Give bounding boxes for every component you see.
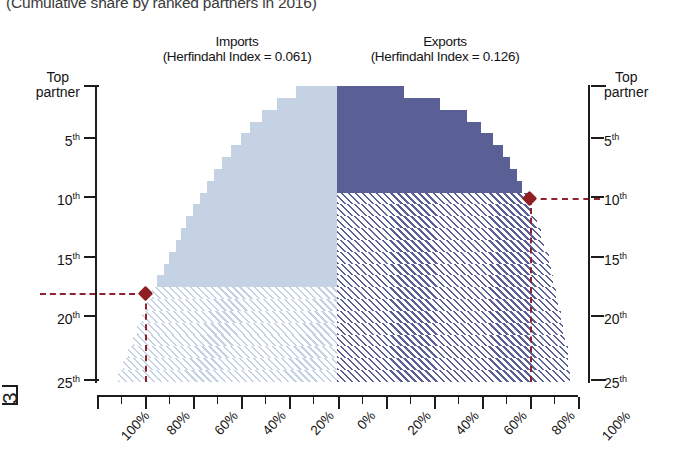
- x-axis-tick: [434, 397, 436, 409]
- imports-panel-title: Imports (Herfindahl Index = 0.061): [127, 34, 347, 64]
- bar-row: [337, 181, 522, 193]
- bar-row: [337, 216, 537, 228]
- bar-row: [337, 145, 503, 157]
- x-axis-label: 0%: [354, 408, 378, 433]
- bar-row: [157, 275, 337, 287]
- x-axis-label: 40%: [260, 408, 289, 438]
- bar-row: [337, 287, 556, 299]
- x-axis-minor-tick: [313, 397, 314, 404]
- bar-row: [169, 252, 337, 264]
- bar-row: [296, 86, 337, 98]
- page-number: 3: [0, 392, 22, 404]
- y-axis-label: 5th: [65, 130, 80, 149]
- x-axis-minor-tick: [362, 397, 363, 404]
- bar-row: [337, 86, 404, 98]
- x-axis-minor-tick: [554, 397, 555, 404]
- chart-page: (Cumulative share by ranked partners in …: [0, 0, 686, 454]
- exports-bars: [337, 86, 578, 382]
- bar-row: [337, 346, 568, 358]
- x-axis-tick: [193, 397, 195, 409]
- bar-row: [337, 122, 481, 134]
- bar-row: [123, 358, 337, 370]
- bar-row: [231, 145, 337, 157]
- exports-title-label: Exports: [330, 34, 560, 49]
- bar-row: [207, 181, 337, 193]
- x-axis-label: 60%: [212, 408, 241, 438]
- y-axis-tick: [591, 256, 604, 258]
- y-axis-tick: [591, 315, 604, 317]
- y-axis-label: 5th: [604, 130, 619, 149]
- x-axis: [97, 395, 578, 397]
- bar-row: [337, 169, 517, 181]
- bar-row: [147, 299, 337, 311]
- x-axis-tick: [145, 397, 147, 409]
- y-axis-label: 10th: [57, 189, 80, 208]
- bar-row: [214, 169, 337, 181]
- bar-row: [337, 299, 558, 311]
- bar-row: [337, 275, 553, 287]
- imports-guide-line-vertical: [145, 293, 147, 382]
- exports-panel-title: Exports (Herfindahl Index = 0.126): [330, 34, 560, 64]
- imports-herfindahl-label: (Herfindahl Index = 0.061): [127, 49, 347, 64]
- bar-row: [337, 204, 532, 216]
- imports-title-label: Imports: [127, 34, 347, 49]
- y-axis-label: 15th: [604, 249, 627, 268]
- bar-row: [164, 264, 337, 276]
- x-axis-tick: [482, 397, 484, 409]
- bar-row: [118, 370, 337, 382]
- x-axis-tick: [289, 397, 291, 409]
- y-axis-label: 25th: [57, 372, 80, 391]
- y-axis-tick: [591, 196, 604, 198]
- x-axis-minor-tick: [217, 397, 218, 404]
- x-axis-minor-tick: [506, 397, 507, 404]
- bar-row: [277, 98, 337, 110]
- bar-row: [250, 122, 337, 134]
- x-axis-tick: [338, 397, 340, 409]
- bar-row: [181, 228, 337, 240]
- x-axis-tick: [578, 397, 580, 409]
- x-axis-minor-tick: [458, 397, 459, 404]
- x-axis-label: 80%: [548, 408, 577, 438]
- x-axis-label: 100%: [118, 408, 153, 443]
- x-axis-tick: [530, 397, 532, 409]
- bar-row: [142, 311, 337, 323]
- exports-guide-line-vertical: [530, 198, 532, 382]
- y-axis-label: 20th: [604, 308, 627, 327]
- y-axis-tick: [591, 137, 604, 139]
- bar-row: [337, 228, 541, 240]
- x-axis-minor-tick: [169, 397, 170, 404]
- y-axis-label: 15th: [57, 249, 80, 268]
- bar-row: [337, 110, 467, 122]
- bar-row: [137, 323, 337, 335]
- plot-area: [97, 86, 578, 382]
- bar-row: [152, 287, 337, 299]
- y-axis-label: Toppartner: [36, 70, 80, 100]
- y-axis-label: 20th: [57, 308, 80, 327]
- x-axis-minor-tick: [410, 397, 411, 404]
- bar-row: [337, 240, 544, 252]
- y-axis-label: 25th: [604, 372, 627, 391]
- x-axis-label: 80%: [164, 408, 193, 438]
- bar-row: [337, 193, 527, 205]
- bar-row: [337, 311, 561, 323]
- bar-row: [337, 133, 493, 145]
- y-axis-label: Toppartner: [604, 70, 648, 100]
- y-axis-right: [588, 85, 590, 383]
- bar-row: [133, 335, 337, 347]
- bar-row: [241, 133, 337, 145]
- bar-row: [128, 346, 337, 358]
- x-axis-label: 20%: [404, 408, 433, 438]
- bar-row: [186, 216, 338, 228]
- bar-row: [262, 110, 337, 122]
- imports-bars: [97, 86, 337, 382]
- bar-row: [193, 204, 337, 216]
- y-axis-right-labels: Toppartner5th10th15th20th25th: [604, 0, 686, 454]
- x-axis-tick: [386, 397, 388, 409]
- bar-row: [176, 240, 337, 252]
- x-axis-tick: [241, 397, 243, 409]
- bar-row: [337, 370, 570, 382]
- x-axis-label: 60%: [500, 408, 529, 438]
- bar-row: [222, 157, 337, 169]
- bar-row: [337, 358, 568, 370]
- exports-herfindahl-label: (Herfindahl Index = 0.126): [330, 49, 560, 64]
